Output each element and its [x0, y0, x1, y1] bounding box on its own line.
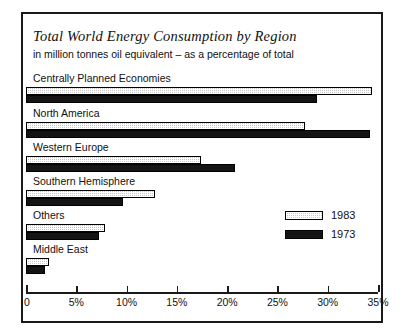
- legend-swatch-1983-icon: [285, 211, 323, 220]
- axis-tick: [127, 286, 129, 292]
- axis-tick: [177, 286, 179, 292]
- axis-tick: [328, 286, 330, 292]
- bar-1983: [26, 190, 155, 198]
- axis-tick-label: 20%: [217, 296, 238, 308]
- bar-1983: [26, 122, 305, 130]
- axis-tick: [76, 286, 78, 292]
- axis-tick: [277, 286, 279, 292]
- chart-subtitle: in million tonnes oil equivalent – as a …: [33, 48, 294, 60]
- bar-1983: [26, 258, 49, 266]
- legend-label-1983: 1983: [331, 209, 355, 221]
- bar-1973: [26, 95, 317, 103]
- category-label: Middle East: [33, 243, 88, 255]
- bar-1983: [26, 224, 105, 232]
- x-axis-line: [26, 292, 378, 294]
- chart-page: Total World Energy Consumption by Region…: [0, 0, 405, 336]
- bar-1973: [26, 232, 99, 240]
- axis-tick-label: 25%: [267, 296, 288, 308]
- figure-frame: Total World Energy Consumption by Region…: [21, 12, 383, 323]
- axis-tick: [26, 285, 28, 292]
- category-label: Others: [33, 209, 65, 221]
- x-axis: 05%10%15%20%25%30%35%: [23, 292, 381, 320]
- legend-label-1973: 1973: [331, 228, 355, 240]
- chart-title: Total World Energy Consumption by Region: [33, 28, 297, 45]
- category-label: North America: [33, 107, 100, 119]
- category-label: Western Europe: [33, 141, 109, 153]
- axis-tick-label: 35%: [367, 296, 388, 308]
- axis-tick-label: 15%: [166, 296, 187, 308]
- axis-tick-label: 30%: [317, 296, 338, 308]
- axis-tick: [378, 285, 380, 292]
- legend-item-1983: 1983: [285, 210, 375, 225]
- axis-tick-label: 10%: [116, 296, 137, 308]
- bar-1973: [26, 266, 45, 274]
- axis-tick: [227, 286, 229, 292]
- legend-swatch-1973-icon: [285, 230, 323, 239]
- plot-area: Centrally Planned EconomiesNorth America…: [23, 72, 381, 287]
- axis-tick-label: 0: [24, 296, 30, 308]
- bar-1983: [26, 156, 201, 164]
- bar-1983: [26, 87, 372, 95]
- chart-legend: 1983 1973: [285, 210, 375, 248]
- bar-1973: [26, 164, 235, 172]
- category-label: Southern Hemisphere: [33, 175, 135, 187]
- axis-tick-label: 5%: [69, 296, 84, 308]
- legend-item-1973: 1973: [285, 229, 375, 244]
- category-label: Centrally Planned Economies: [33, 72, 171, 84]
- bar-1973: [26, 198, 123, 206]
- bar-1973: [26, 130, 370, 138]
